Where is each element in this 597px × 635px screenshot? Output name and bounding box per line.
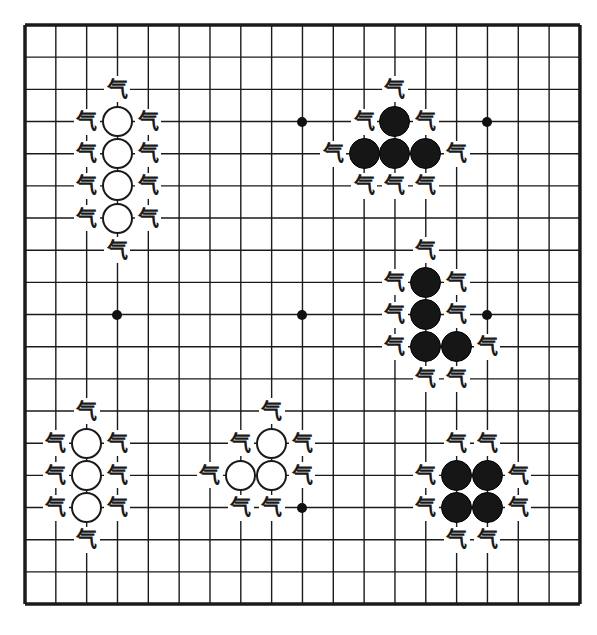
liberty-label: 气 — [104, 430, 130, 456]
liberty-label: 气 — [413, 237, 439, 263]
liberty-label: 气 — [444, 366, 470, 392]
liberty-label: 气 — [74, 527, 100, 553]
liberty-label: 气 — [74, 141, 100, 167]
liberty-label: 气 — [228, 430, 254, 456]
black-stone — [441, 460, 472, 491]
star-point — [297, 310, 307, 320]
white-stone — [71, 428, 102, 459]
white-stone — [71, 492, 102, 523]
white-stone — [71, 460, 102, 491]
liberty-label: 气 — [351, 173, 377, 199]
liberty-label: 气 — [43, 462, 69, 488]
liberty-label: 气 — [444, 141, 470, 167]
liberty-label: 气 — [74, 109, 100, 135]
white-stone — [102, 106, 133, 137]
liberty-label: 气 — [43, 495, 69, 521]
liberty-label: 气 — [505, 462, 531, 488]
liberty-label: 气 — [74, 398, 100, 424]
liberty-label: 气 — [104, 237, 130, 263]
liberty-label: 气 — [413, 495, 439, 521]
white-stone — [102, 138, 133, 169]
liberty-label: 气 — [135, 109, 161, 135]
liberty-label: 气 — [197, 462, 223, 488]
black-stone — [472, 492, 503, 523]
star-point — [482, 117, 492, 127]
liberty-label: 气 — [444, 527, 470, 553]
liberty-label: 气 — [320, 141, 346, 167]
star-point — [112, 310, 122, 320]
white-stone — [225, 460, 256, 491]
liberty-label: 气 — [474, 430, 500, 456]
liberty-label: 气 — [289, 462, 315, 488]
liberty-label: 气 — [259, 495, 285, 521]
liberty-label: 气 — [382, 173, 408, 199]
white-stone — [102, 203, 133, 234]
liberty-label: 气 — [413, 109, 439, 135]
black-stone — [472, 460, 503, 491]
black-stone — [349, 138, 380, 169]
liberty-label: 气 — [74, 205, 100, 231]
white-stone — [256, 460, 287, 491]
liberty-label: 气 — [413, 173, 439, 199]
liberty-label: 气 — [43, 430, 69, 456]
white-stone — [256, 428, 287, 459]
liberty-label: 气 — [259, 398, 285, 424]
go-board: 气气气气气气气气气气气气气气气气气气气气气气气气气气气气气气气气气气气气气气气气… — [0, 0, 597, 635]
liberty-label: 气 — [74, 173, 100, 199]
liberty-label: 气 — [104, 462, 130, 488]
black-stone — [441, 492, 472, 523]
liberty-label: 气 — [444, 430, 470, 456]
liberty-label: 气 — [382, 302, 408, 328]
liberty-label: 气 — [382, 269, 408, 295]
liberty-label: 气 — [135, 141, 161, 167]
liberty-label: 气 — [474, 334, 500, 360]
liberty-label: 气 — [228, 495, 254, 521]
liberty-label: 气 — [474, 527, 500, 553]
star-point — [297, 117, 307, 127]
liberty-label: 气 — [382, 334, 408, 360]
liberty-label: 气 — [444, 302, 470, 328]
liberty-label: 气 — [413, 366, 439, 392]
star-point — [482, 310, 492, 320]
liberty-label: 气 — [382, 76, 408, 102]
liberty-label: 气 — [351, 109, 377, 135]
liberty-label: 气 — [413, 462, 439, 488]
liberty-label: 气 — [505, 495, 531, 521]
liberty-label: 气 — [289, 430, 315, 456]
liberty-label: 气 — [135, 173, 161, 199]
black-stone — [410, 267, 441, 298]
liberty-label: 气 — [104, 495, 130, 521]
liberty-label: 气 — [444, 269, 470, 295]
liberty-label: 气 — [135, 205, 161, 231]
liberty-label: 气 — [104, 76, 130, 102]
